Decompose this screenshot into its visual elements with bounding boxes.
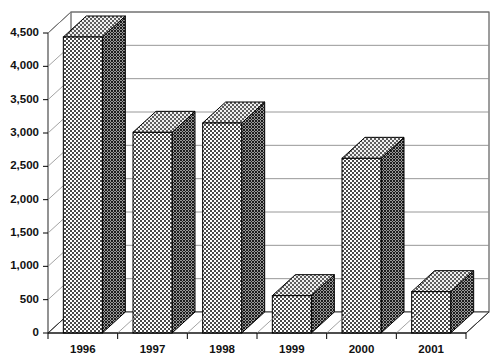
bar-side-face xyxy=(242,102,265,333)
bar-front-face xyxy=(203,123,242,333)
bar-side-face xyxy=(102,16,125,333)
bar-front-face xyxy=(133,132,172,333)
category-axis-tick-label: 2000 xyxy=(349,343,375,355)
value-axis-tick-label: 500 xyxy=(20,293,39,305)
category-axis-tick-label: 1998 xyxy=(209,343,235,355)
value-axis-tick-label: 1,000 xyxy=(10,259,39,271)
category-axis-tick-label: 2001 xyxy=(418,343,444,355)
bar-front-face xyxy=(272,296,311,333)
bar-chart: 05001,0001,5002,0002,5003,0003,5004,0004… xyxy=(0,0,492,362)
value-axis-tick-label: 4,000 xyxy=(10,59,39,71)
bar-side-face xyxy=(172,111,195,333)
bar-side-face xyxy=(381,137,404,333)
value-axis-tick-label: 1,500 xyxy=(10,226,39,238)
category-axis-tick-label: 1999 xyxy=(279,343,305,355)
category-axis-tick-label: 1997 xyxy=(140,343,166,355)
chart-canvas: 05001,0001,5002,0002,5003,0003,5004,0004… xyxy=(0,0,492,362)
value-axis-ticks xyxy=(43,33,48,333)
value-axis-tick-label: 3,000 xyxy=(10,126,39,138)
bar-column xyxy=(63,16,125,333)
value-axis-tick-label: 2,000 xyxy=(10,193,39,205)
value-axis-tick-label: 0 xyxy=(33,326,39,338)
bar-front-face xyxy=(342,158,381,333)
bar-column xyxy=(133,111,195,333)
bar-column xyxy=(203,102,265,333)
value-axis-tick-label: 3,500 xyxy=(10,93,39,105)
category-axis-tick-label: 1996 xyxy=(70,343,96,355)
value-axis-tick-label: 2,500 xyxy=(10,159,39,171)
gridline-depth-connector xyxy=(48,12,71,33)
category-axis-tick-labels: 199619971998199920002001 xyxy=(70,343,445,355)
value-axis-tick-label: 4,500 xyxy=(10,26,39,38)
bar-front-face xyxy=(63,37,102,333)
value-axis-tick-labels: 05001,0001,5002,0002,5003,0003,5004,0004… xyxy=(10,26,39,338)
bar-column xyxy=(342,137,404,333)
bar-front-face xyxy=(412,292,451,333)
